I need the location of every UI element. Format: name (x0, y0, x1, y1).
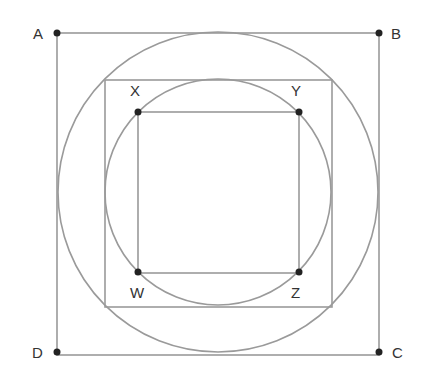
point-a-label: A (33, 25, 43, 42)
points-layer: A B C D X Y Z W (32, 25, 403, 361)
point-b-dot (376, 30, 383, 37)
point-z-label: Z (291, 284, 300, 301)
point-y-dot (296, 109, 303, 116)
point-x: X (130, 82, 142, 116)
point-w-dot (135, 269, 142, 276)
point-a-dot (54, 30, 61, 37)
point-d-dot (54, 349, 61, 356)
point-c-dot (376, 349, 383, 356)
point-x-label: X (130, 82, 140, 99)
point-d-label: D (32, 344, 43, 361)
point-y: Y (291, 82, 303, 116)
inner-square-wxyz (138, 112, 299, 273)
point-b-label: B (391, 25, 401, 42)
point-w-label: W (130, 284, 145, 301)
point-c-label: C (392, 344, 403, 361)
geometry-diagram: A B C D X Y Z W (0, 0, 424, 371)
point-y-label: Y (291, 82, 301, 99)
point-x-dot (135, 109, 142, 116)
point-z-dot (296, 269, 303, 276)
